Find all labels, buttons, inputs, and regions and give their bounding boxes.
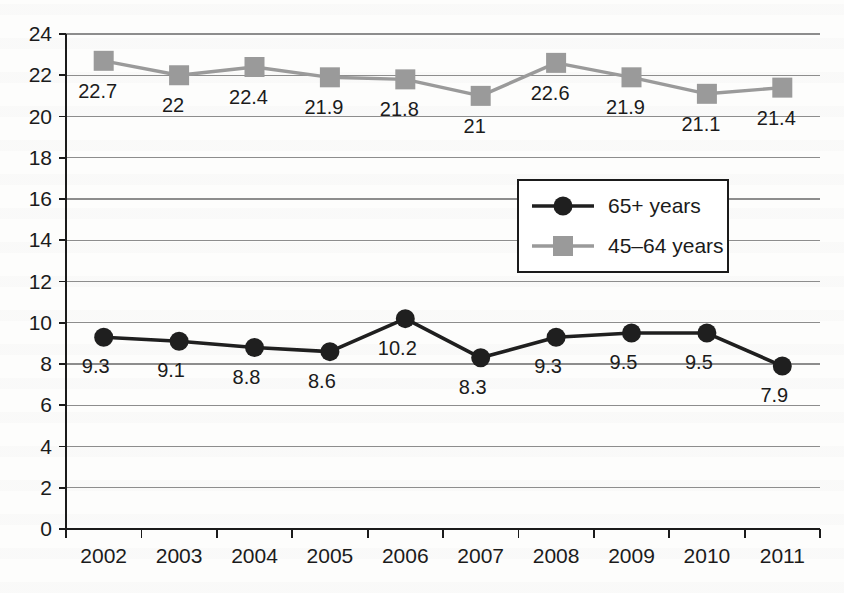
data-point-label: 22.6 — [531, 82, 570, 104]
x-axis-tick-label: 2010 — [684, 544, 731, 567]
y-axis-tick-label: 0 — [40, 517, 52, 540]
series-marker-square — [546, 53, 566, 73]
line-chart: 024681012141618202224 200220032004200520… — [0, 0, 844, 593]
series-line — [104, 319, 783, 366]
x-axis-tick-label: 2002 — [80, 544, 127, 567]
series-marker-circle — [396, 309, 415, 328]
series-marker-circle — [773, 357, 792, 376]
legend-label: 65+ years — [608, 194, 701, 217]
series-marker-circle — [697, 324, 716, 343]
x-axis-tick-label: 2009 — [608, 544, 655, 567]
series-marker-square — [622, 67, 642, 87]
y-axis-tick-label: 4 — [40, 435, 52, 458]
x-axis-tick-label: 2005 — [307, 544, 354, 567]
series-line — [104, 61, 783, 96]
series-marker-square — [395, 69, 415, 89]
data-point-label: 8.3 — [459, 376, 487, 398]
chart-page: 024681012141618202224 200220032004200520… — [0, 0, 844, 593]
y-axis-tick-label: 24 — [29, 22, 53, 45]
data-point-label: 9.3 — [534, 355, 562, 377]
series-marker-circle — [170, 332, 189, 351]
legend-marker-square — [553, 236, 573, 256]
series-marker-square — [697, 84, 717, 104]
x-axis-tick-label: 2011 — [760, 544, 805, 567]
series-marker-square — [245, 57, 265, 77]
series-marker-square — [772, 78, 792, 98]
series-marker-square — [471, 86, 491, 106]
y-axis-tick-label: 16 — [29, 187, 52, 210]
y-axis-tick-label: 8 — [40, 352, 52, 375]
data-point-label: 7.9 — [760, 384, 788, 406]
data-point-label: 22 — [162, 94, 184, 116]
y-axis-tick-label: 6 — [40, 393, 52, 416]
legend-item[interactable]: 45–64 years — [532, 234, 724, 257]
series-marker-circle — [622, 324, 641, 343]
y-axis-tick-label: 18 — [29, 146, 52, 169]
y-axis-tick-label: 2 — [40, 476, 52, 499]
legend-label: 45–64 years — [608, 234, 724, 257]
y-axis-tick-label: 10 — [29, 311, 52, 334]
data-point-label: 21.8 — [380, 98, 419, 120]
data-point-label: 9.3 — [82, 355, 110, 377]
series-marker-circle — [547, 328, 566, 347]
data-point-label: 21.9 — [304, 96, 343, 118]
data-point-label: 21.4 — [757, 107, 796, 129]
x-axis-tick-label: 2004 — [231, 544, 278, 567]
data-point-label: 10.2 — [378, 337, 417, 359]
x-axis-tick-label: 2008 — [533, 544, 580, 567]
y-axis-ticks: 024681012141618202224 — [29, 22, 66, 540]
y-axis-tick-label: 12 — [29, 270, 52, 293]
series-marker-circle — [320, 342, 339, 361]
y-axis-tick-label: 22 — [29, 63, 52, 86]
data-point-label: 9.5 — [685, 351, 713, 373]
data-point-label: 21.9 — [606, 96, 645, 118]
data-point-label: 9.5 — [610, 351, 638, 373]
x-axis-ticks: 2002200320042005200620072008200920102011 — [66, 529, 820, 567]
data-point-label: 22.4 — [229, 86, 268, 108]
data-point-label: 21 — [464, 115, 486, 137]
series-marker-circle — [245, 338, 264, 357]
data-point-label: 22.7 — [78, 80, 117, 102]
x-axis-tick-label: 2006 — [382, 544, 429, 567]
series-marker-square — [320, 67, 340, 87]
chart-legend: 65+ years45–64 years — [518, 180, 728, 272]
series-marker-circle — [471, 348, 490, 367]
legend-marker-circle — [554, 197, 573, 216]
x-axis-tick-label: 2007 — [457, 544, 504, 567]
series-marker-square — [169, 65, 189, 85]
data-point-label: 8.6 — [308, 370, 336, 392]
x-axis-tick-label: 2003 — [156, 544, 203, 567]
series-marker-circle — [94, 328, 113, 347]
series-marker-square — [94, 51, 114, 71]
y-axis-tick-label: 20 — [29, 105, 52, 128]
y-axis-tick-label: 14 — [29, 228, 53, 251]
data-point-label: 8.8 — [233, 366, 261, 388]
data-point-label: 21.1 — [681, 113, 720, 135]
data-point-label: 9.1 — [157, 359, 185, 381]
